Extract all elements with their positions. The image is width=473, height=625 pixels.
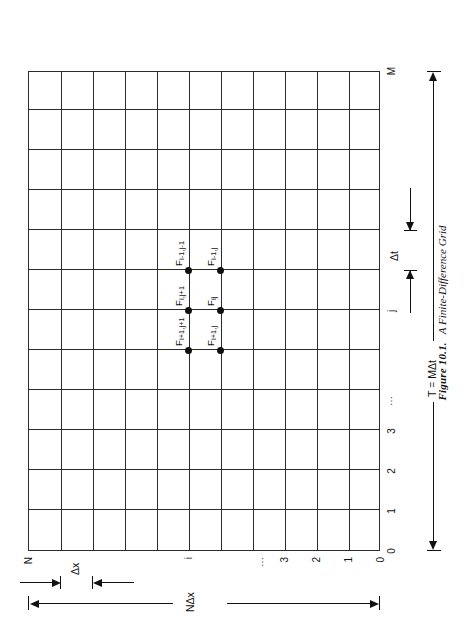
grid-vline bbox=[29, 108, 379, 109]
space-tick-3: 3 bbox=[278, 557, 289, 581]
grid-vline bbox=[29, 268, 379, 269]
total-space-line-bottom bbox=[227, 602, 372, 603]
grid-hline bbox=[125, 72, 126, 550]
grid-hline bbox=[253, 72, 254, 550]
node-im1-jm1 bbox=[184, 267, 191, 274]
figure-caption-title: A Finite-Difference Grid bbox=[436, 225, 448, 334]
space-tick-1: 1 bbox=[342, 557, 353, 581]
grid-vline bbox=[29, 388, 379, 389]
delta-x-line-bottom bbox=[100, 581, 134, 582]
finite-difference-grid bbox=[28, 71, 380, 551]
node-i-j-label: Fij bbox=[205, 296, 216, 305]
node-subscript: i-1,j bbox=[209, 247, 218, 259]
grid-vline bbox=[29, 508, 379, 509]
figure-caption-number: Figure 10.1. bbox=[436, 342, 448, 400]
node-subscript: i-1,j-1 bbox=[177, 240, 186, 259]
space-tick-4: ⋯ bbox=[256, 557, 267, 581]
grid-vline bbox=[29, 348, 379, 349]
total-time-line-left bbox=[433, 402, 434, 542]
node-base: F bbox=[173, 260, 184, 266]
delta-x-arrow-down bbox=[52, 579, 61, 587]
grid-hline bbox=[61, 72, 62, 550]
time-tick-5: j bbox=[386, 309, 397, 311]
time-tick-6: M bbox=[386, 66, 397, 74]
grid-vline bbox=[29, 148, 379, 149]
node-ip1-jp1 bbox=[184, 347, 191, 354]
total-space-label: NΔx bbox=[184, 592, 196, 612]
grid-hline bbox=[285, 72, 286, 550]
time-tick-4: ⋯ bbox=[386, 396, 397, 406]
delta-t-arrow-right bbox=[406, 270, 414, 279]
space-tick-5: i bbox=[182, 557, 193, 581]
node-base: F bbox=[205, 340, 216, 346]
space-tick-2: 2 bbox=[310, 557, 321, 581]
grid-hline bbox=[349, 72, 350, 550]
finite-difference-figure: Fi+1,j+1Fi,j+1Fi-1,j-1Fi+1,jFijFi-1,j 01… bbox=[12, 13, 462, 613]
delta-x-line-top bbox=[20, 581, 54, 582]
node-im1-jm1-label: Fi-1,j-1 bbox=[173, 240, 184, 265]
grid-vline bbox=[29, 428, 379, 429]
rotated-figure-wrapper: Fi+1,j+1Fi,j+1Fi-1,j-1Fi+1,jFijFi-1,j 01… bbox=[12, 13, 462, 613]
node-subscript: i+1,j bbox=[209, 325, 218, 339]
node-base: F bbox=[173, 340, 184, 346]
node-base: F bbox=[205, 300, 216, 306]
node-i-j bbox=[216, 307, 223, 314]
total-space-arrow-down bbox=[370, 600, 379, 608]
grid-hline bbox=[157, 72, 158, 550]
node-subscript: i+1,j+1 bbox=[177, 317, 186, 340]
grid-hline bbox=[93, 72, 94, 550]
figure-caption: Figure 10.1.A Finite-Difference Grid bbox=[436, 13, 448, 613]
node-subscript: ij bbox=[209, 296, 218, 299]
node-ip1-j bbox=[216, 347, 223, 354]
grid-vline bbox=[29, 228, 379, 229]
node-ip1-jp1-label: Fi+1,j+1 bbox=[173, 317, 184, 346]
time-tick-1: 1 bbox=[386, 508, 397, 514]
time-tick-0: 0 bbox=[386, 548, 397, 554]
space-tick-0: 0 bbox=[374, 557, 385, 581]
total-time-line-right bbox=[433, 80, 434, 341]
node-im1-j bbox=[216, 267, 223, 274]
node-ip1-j-label: Fi+1,j bbox=[205, 325, 216, 345]
space-tick-6: N bbox=[22, 557, 33, 581]
grid-vline bbox=[29, 468, 379, 469]
grid-vline bbox=[29, 188, 379, 189]
time-tick-2: 2 bbox=[386, 468, 397, 474]
node-subscript: i,j+1 bbox=[177, 285, 186, 299]
time-tick-3: 3 bbox=[386, 428, 397, 434]
total-space-arrow-up bbox=[30, 600, 39, 608]
node-i-jp1 bbox=[184, 307, 191, 314]
delta-t-label: Δt bbox=[388, 251, 400, 261]
delta-t-arrow-left bbox=[406, 222, 414, 231]
figure-page: Fi+1,j+1Fi,j+1Fi-1,j-1Fi+1,jFijFi-1,j 01… bbox=[0, 0, 473, 625]
delta-x-arrow-up bbox=[93, 579, 102, 587]
node-i-jp1-label: Fi,j+1 bbox=[173, 285, 184, 305]
delta-x-label: Δx bbox=[69, 562, 81, 574]
grid-hline bbox=[317, 72, 318, 550]
total-space-cap-top bbox=[28, 596, 29, 610]
node-base: F bbox=[173, 300, 184, 306]
node-im1-j-label: Fi-1,j bbox=[205, 247, 216, 265]
node-base: F bbox=[205, 260, 216, 266]
total-space-line-top bbox=[38, 602, 173, 603]
grid-vline bbox=[29, 308, 379, 309]
